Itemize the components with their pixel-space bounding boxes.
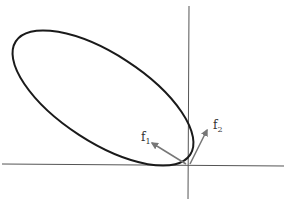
ellipse [0,4,214,191]
diagram-canvas: f1 f2 [0,0,288,202]
label-f2: f2 [213,118,223,134]
label-f1: f1 [141,130,151,146]
y-axis [188,6,189,199]
x-axis [2,164,284,166]
vector-f1 [152,143,186,164]
